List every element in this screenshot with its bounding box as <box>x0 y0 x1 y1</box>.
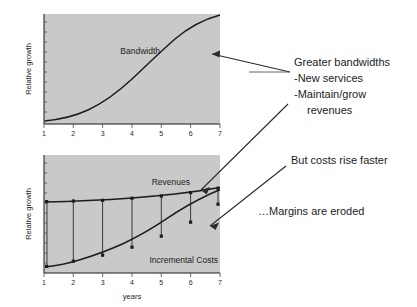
bandwidth-xtick-4: 4 <box>130 130 134 137</box>
bandwidth-xtick-3: 3 <box>101 130 105 137</box>
revenues-costs-xtick-7: 7 <box>218 279 222 286</box>
callout-mid-line1: But costs rise faster <box>291 154 388 166</box>
bandwidth-series-label: Bandwidth <box>120 46 160 56</box>
bandwidth-y-axis-title: Relative growth <box>24 43 33 95</box>
revenues-costs-xtick-2: 2 <box>71 279 75 286</box>
revenues-costs-xtick-6: 6 <box>189 279 193 286</box>
callout-top-line2: -New services <box>294 72 364 84</box>
revenues-costs-xtick-1: 1 <box>42 279 46 286</box>
revenues-costs-y-axis-title: Relative growth <box>24 188 33 240</box>
bandwidth-plot-background <box>44 14 220 124</box>
arrow-to-incremental-costs <box>210 166 286 230</box>
revenues-costs-xtick-4: 4 <box>130 279 134 286</box>
bandwidth-xtick-5: 5 <box>159 130 163 137</box>
bandwidth-chart: 1 2 3 4 5 6 7 Relative growth Bandwidth <box>24 14 222 137</box>
revenues-series-label: Revenues <box>152 177 190 187</box>
callout-top-line3: -Maintain/grow <box>294 88 366 100</box>
bandwidth-xtick-6: 6 <box>189 130 193 137</box>
slide-canvas: 1 2 3 4 5 6 7 Relative growth Bandwidth <box>0 0 417 307</box>
callout-top-line4: revenues <box>307 104 353 116</box>
callout-top-line1: Greater bandwidths <box>294 56 390 68</box>
revenues-costs-xtick-5: 5 <box>159 279 163 286</box>
revenues-costs-x-axis-title: years <box>123 292 142 301</box>
revenues-costs-chart: 1 2 3 4 5 6 7 Relative growth years Reve… <box>24 155 222 301</box>
revenues-costs-xtick-3: 3 <box>101 279 105 286</box>
incremental-costs-series-label: Incremental Costs <box>150 255 219 265</box>
revenues-costs-x-ticks <box>44 273 220 277</box>
bandwidth-xtick-2: 2 <box>71 130 75 137</box>
arrow-to-bandwidth <box>212 51 290 73</box>
bandwidth-xtick-7: 7 <box>218 130 222 137</box>
bandwidth-xtick-1: 1 <box>42 130 46 137</box>
figure-svg: 1 2 3 4 5 6 7 Relative growth Bandwidth <box>0 0 417 307</box>
callout-bottom-line1: …Margins are eroded <box>258 205 364 217</box>
bandwidth-x-ticks <box>44 124 220 128</box>
